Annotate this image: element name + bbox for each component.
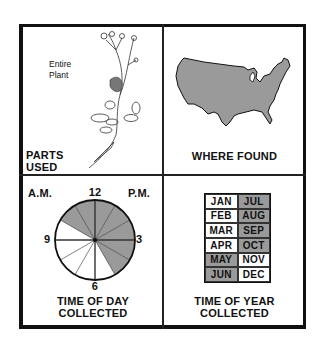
month-cell-apr: APR (205, 238, 238, 253)
horizontal-divider (19, 174, 306, 176)
month-calendar-grid: JANJULFEBAUGMARSEPAPROCTMAYNOVJUNDEC (204, 193, 271, 283)
month-cell-mar: MAR (205, 223, 238, 238)
title-line-1: TIME OF YEAR (163, 295, 306, 307)
us-map-icon (174, 56, 302, 130)
month-cell-jul: JUL (238, 194, 271, 209)
month-cell-feb: FEB (205, 209, 238, 224)
month-cell-sep: SEP (238, 223, 271, 238)
parts-used-title: PARTS USED (26, 149, 63, 173)
month-cell-oct: OCT (238, 238, 271, 253)
month-cell-dec: DEC (238, 267, 271, 282)
title-line-2: USED (26, 161, 63, 173)
note-line-2: Plant (49, 70, 71, 81)
clock-dial-icon (50, 195, 140, 285)
note-line-1: Entire (49, 59, 71, 70)
month-cell-aug: AUG (238, 209, 271, 224)
time-of-year-title: TIME OF YEAR COLLECTED (163, 295, 306, 319)
title-line-1: PARTS (26, 149, 63, 161)
am-label: A.M. (28, 187, 52, 199)
title-line-2: COLLECTED (23, 307, 163, 319)
month-cell-jan: JAN (205, 194, 238, 209)
month-cell-nov: NOV (238, 253, 271, 268)
entire-plant-note: Entire Plant (49, 59, 71, 81)
vertical-divider (162, 24, 164, 329)
plant-drawing-icon (86, 30, 146, 170)
month-cell-jun: JUN (205, 267, 238, 282)
month-cell-may: MAY (205, 253, 238, 268)
where-found-title: WHERE FOUND (163, 150, 306, 162)
time-of-day-title: TIME OF DAY COLLECTED (23, 295, 163, 319)
title-line-1: TIME OF DAY (23, 295, 163, 307)
title-line-2: COLLECTED (163, 307, 306, 319)
